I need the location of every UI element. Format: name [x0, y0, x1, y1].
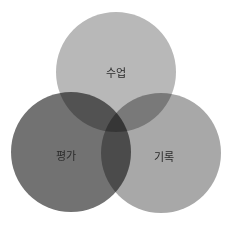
venn-diagram: 수업 평가 기록 — [0, 0, 233, 227]
label-evaluation: 평가 — [56, 147, 76, 163]
label-class: 수업 — [106, 64, 126, 80]
label-record: 기록 — [154, 148, 174, 164]
venn-canvas — [0, 0, 233, 227]
